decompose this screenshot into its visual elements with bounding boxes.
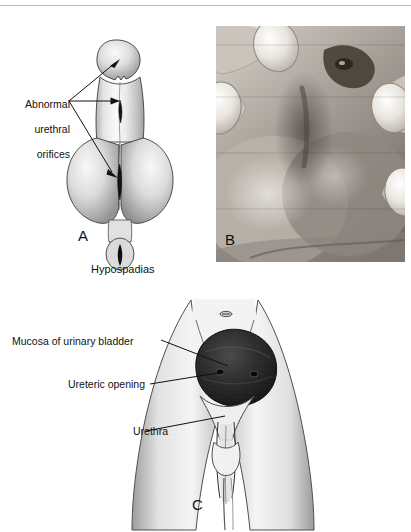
label-abnormal-urethral-orifices: Abnormal urethral orifices: [8, 85, 70, 173]
panel-letter-b: B: [225, 234, 235, 247]
panel-a-hypospadias: Abnormal urethral orifices: [0, 14, 210, 280]
label-ureteric-opening: Ureteric opening: [68, 378, 145, 391]
panel-b-clinical-photograph: B: [216, 26, 405, 262]
perineal-midline-shadow: [231, 478, 233, 530]
label-abnormal-line-2: urethral: [34, 123, 70, 135]
label-abnormal-line-1: Abnormal: [25, 98, 70, 110]
panel-letter-a: A: [78, 230, 88, 243]
panel-c-bladder-exstrophy: [28, 292, 411, 532]
page-top-rule: [0, 5, 411, 6]
label-abnormal-line-3: orifices: [37, 148, 70, 160]
photo-lesion-highlight: [339, 61, 345, 65]
caption-hypospadias: Hypospadias: [91, 263, 155, 276]
ureteric-opening-right: [250, 371, 258, 377]
figure-root: Abnormal urethral orifices A Hypospadias: [0, 0, 411, 532]
label-urethra: Urethra: [133, 425, 168, 438]
glans-stipple: [97, 40, 140, 80]
panel-letter-c: C: [192, 499, 203, 512]
panel-c-illustration: [28, 292, 411, 532]
label-mucosa-of-urinary-bladder: Mucosa of urinary bladder: [12, 335, 133, 348]
panel-b-photo-image: [216, 26, 405, 262]
